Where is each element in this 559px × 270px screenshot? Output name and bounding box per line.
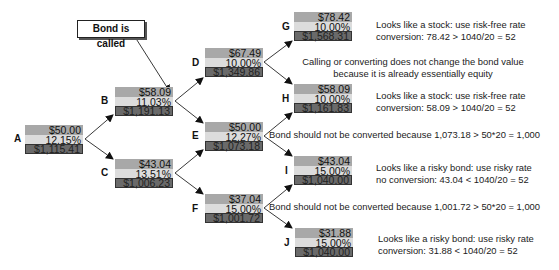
node-j: $31.88 15.00% $1,040.00	[295, 228, 353, 257]
node-label-c: C	[101, 167, 108, 178]
bond-value: $1,191.13	[115, 106, 173, 116]
note-line: Bond should not be converted because 1,0…	[269, 129, 540, 141]
node-label-a: A	[14, 133, 21, 144]
note-line: because it is already essentially equity	[268, 68, 558, 80]
note-line: Looks like a risky bond: use risky rate	[376, 162, 532, 174]
note-g: Looks like a stock: use risk-free rate c…	[376, 19, 526, 43]
bond-value: $1,349.86	[205, 67, 263, 77]
bond-called-callout: Bond is called	[77, 20, 145, 38]
bond-value: $1,040.00	[295, 247, 353, 257]
bond-value: $1,568.31	[294, 31, 352, 41]
node-e: $50.00 12.27% $1,073.18	[205, 122, 263, 151]
node-label-j: J	[284, 237, 290, 248]
note-f: Bond should not be converted because 1,0…	[269, 201, 540, 213]
bond-value: $1,115.41	[25, 144, 83, 154]
note-line: conversion: 31.88 < 1040/20 = 52	[378, 245, 534, 257]
bond-value: $1,040.00	[294, 175, 352, 185]
node-i: $43.04 15.00% $1,040.00	[294, 156, 352, 185]
bond-value: $1,006.23	[115, 178, 173, 188]
node-a: $50.00 12.15% $1,115.41	[25, 125, 83, 154]
bond-value: $1,161.83	[294, 103, 352, 113]
node-label-d: D	[192, 57, 199, 68]
node-label-g: G	[282, 21, 290, 32]
node-g: $78.42 10.00% $1,568.31	[294, 12, 352, 41]
node-label-b: B	[101, 95, 108, 106]
node-label-i: I	[285, 165, 288, 176]
node-f: $37.04 15.00% $1,001.72	[205, 194, 263, 223]
note-line: Looks like a risky bond: use risky rate	[378, 233, 534, 245]
node-label-h: H	[282, 93, 289, 104]
note-e: Bond should not be converted because 1,0…	[269, 129, 540, 141]
note-d: Calling or converting does not change th…	[268, 56, 558, 80]
note-line: Looks like a stock: use risk-free rate	[376, 90, 526, 102]
node-label-f: F	[192, 203, 198, 214]
note-line: no conversion: 43.04 < 1040/20 = 52	[376, 174, 532, 186]
note-line: Bond should not be converted because 1,0…	[269, 201, 540, 213]
bond-value: $1,001.72	[205, 213, 263, 223]
note-line: conversion: 78.42 > 1040/20 = 52	[376, 31, 526, 43]
node-h: $58.09 10.00% $1,161.83	[294, 84, 352, 113]
note-line: Looks like a stock: use risk-free rate	[376, 19, 526, 31]
node-b: $58.09 11.03% $1,191.13	[115, 87, 173, 116]
bond-value: $1,073.18	[205, 141, 263, 151]
node-c: $43.04 13.51% $1,006.23	[115, 159, 173, 188]
note-i: Looks like a risky bond: use risky rate …	[376, 162, 532, 186]
note-h: Looks like a stock: use risk-free rate c…	[376, 90, 526, 114]
note-line: Calling or converting does not change th…	[268, 56, 558, 68]
note-line: conversion: 58.09 > 1040/20 = 52	[376, 102, 526, 114]
note-j: Looks like a risky bond: use risky rate …	[378, 233, 534, 257]
node-label-e: E	[192, 130, 199, 141]
node-d: $67.49 10.00% $1,349.86	[205, 48, 263, 77]
